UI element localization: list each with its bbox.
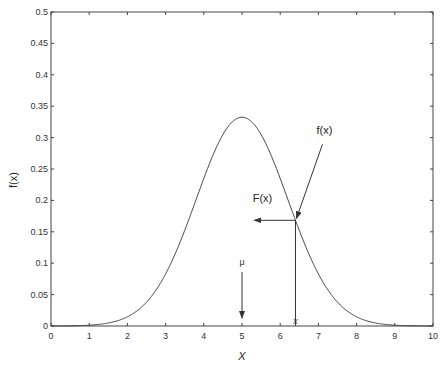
annotations: μxF(x)f(x) xyxy=(239,124,332,326)
y-tick-label: 0.45 xyxy=(30,38,48,48)
y-tick-label: 0.35 xyxy=(30,101,48,111)
y-axis-label: f(x) xyxy=(7,172,19,188)
x-tick-label: 3 xyxy=(163,331,168,341)
y-tick-label: 0.15 xyxy=(30,227,48,237)
y-tick-label: 0.05 xyxy=(30,290,48,300)
y-tick-label: 0.1 xyxy=(35,258,48,268)
x-tick-label: 6 xyxy=(278,331,283,341)
mu-label: μ xyxy=(239,257,244,267)
chart: 01234567891000.050.10.150.20.250.30.350.… xyxy=(0,0,444,367)
x-tick-label: 7 xyxy=(316,331,321,341)
fx-arrow xyxy=(296,144,322,218)
y-tick-label: 0 xyxy=(43,321,48,331)
x-tick-label: 1 xyxy=(87,331,92,341)
ticks: 01234567891000.050.10.150.20.250.30.350.… xyxy=(30,7,438,341)
y-tick-label: 0.25 xyxy=(30,164,48,174)
x-axis-label: X xyxy=(237,350,246,362)
x-tick-label: 4 xyxy=(201,331,206,341)
fx-label: f(x) xyxy=(317,124,333,136)
x-tick-label: 9 xyxy=(392,331,397,341)
y-tick-label: 0.4 xyxy=(35,70,48,80)
x-tick-label: 0 xyxy=(48,331,53,341)
x-marker-label: x xyxy=(292,316,298,326)
x-tick-label: 8 xyxy=(354,331,359,341)
x-tick-label: 10 xyxy=(428,331,438,341)
x-tick-label: 2 xyxy=(125,331,130,341)
y-tick-label: 0.2 xyxy=(35,195,48,205)
y-tick-label: 0.3 xyxy=(35,133,48,143)
x-tick-label: 5 xyxy=(239,331,244,341)
Fx-label: F(x) xyxy=(253,192,273,204)
y-tick-label: 0.5 xyxy=(35,7,48,17)
